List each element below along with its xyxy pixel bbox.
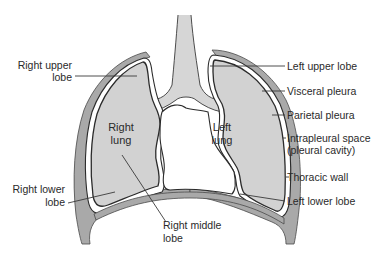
label-right-upper-lobe-1: Right upper bbox=[18, 59, 73, 71]
label-left-upper-lobe: Left upper lobe bbox=[287, 60, 357, 72]
label-right-lower-lobe-1: Right lower bbox=[12, 183, 65, 195]
label-visceral-pleura: Visceral pleura bbox=[287, 85, 356, 97]
label-intrapleural-space-2: (pleural cavity) bbox=[287, 144, 355, 156]
label-right-lung-2: lung bbox=[111, 134, 132, 146]
label-left-lower-lobe: Left lower lobe bbox=[287, 195, 355, 207]
label-parietal-pleura: Parietal pleura bbox=[287, 109, 355, 121]
label-right-middle-lobe-2: lobe bbox=[163, 232, 183, 244]
label-thoracic-wall: Thoracic wall bbox=[287, 171, 348, 183]
label-intrapleural-space-1: Intrapleural space bbox=[287, 132, 371, 144]
label-right-middle-lobe-1: Right middle bbox=[163, 219, 222, 231]
label-right-lower-lobe-2: lobe bbox=[45, 196, 65, 208]
label-right-lung-1: Right bbox=[108, 121, 134, 133]
label-left-lung-2: lung bbox=[212, 134, 233, 146]
label-right-upper-lobe-2: lobe bbox=[52, 71, 72, 83]
lungs-pleura-diagram: Right upper lobe Right lower lobe Right … bbox=[0, 0, 380, 255]
label-left-lung-1: Left bbox=[213, 121, 231, 133]
